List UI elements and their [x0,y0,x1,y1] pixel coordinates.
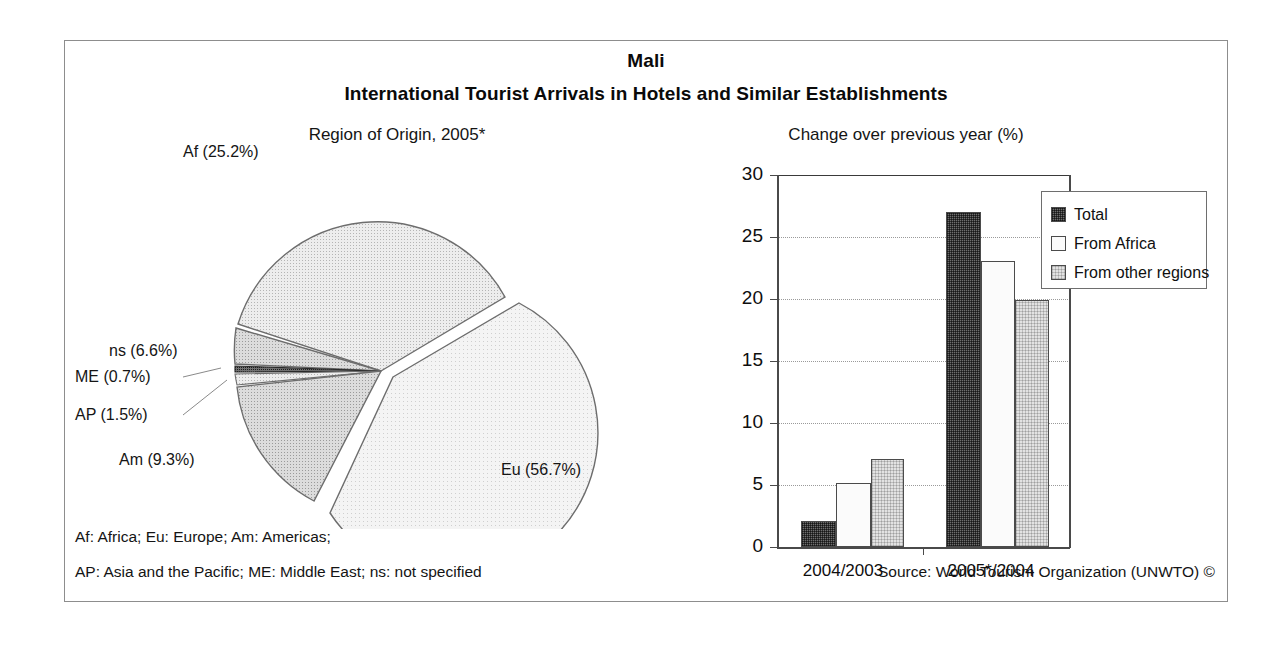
pie-chart-caption: Region of Origin, 2005* [227,125,567,145]
bar-2004-from-other-regions [871,459,904,547]
bar-2005-total [946,212,981,547]
pie-label-ns: ns (6.6%) [109,342,177,360]
ytick-label-15: 15 [729,349,763,371]
legend-swatch-from-other-regions [1051,265,1066,280]
bar-2004-from-africa [836,483,871,547]
gridline-25 [777,237,1070,238]
legend-label-from-other-regions: From other regions [1074,264,1209,282]
category-separator-tick [923,547,924,555]
legend-item-from-other-regions[interactable]: From other regions [1051,258,1206,287]
legend-item-total[interactable]: Total [1051,200,1206,229]
legend-label-from-africa: From Africa [1074,235,1156,253]
ytick-label-25: 25 [729,225,763,247]
bar-chart-legend: Total From Africa From other regions [1041,191,1207,289]
gridline-30 [777,175,1070,176]
bar-chart-caption: Change over previous year (%) [741,125,1071,145]
page-subtitle: International Tourist Arrivals in Hotels… [65,83,1227,105]
y-axis [777,175,779,548]
bar-2005-from-africa [981,261,1015,547]
pie-label-af: Af (25.2%) [183,143,259,161]
pie-chart-svg [71,149,691,529]
ytick-mark-10 [770,423,777,424]
ytick-label-0: 0 [729,535,763,557]
ytick-mark-15 [770,361,777,362]
legend-label-total: Total [1074,206,1108,224]
legend-item-from-africa[interactable]: From Africa [1051,229,1206,258]
ytick-mark-0 [770,547,777,548]
leader-line-ap [183,380,227,415]
leader-line-me [183,368,221,377]
ytick-mark-20 [770,299,777,300]
source-credit: Source: World Tourism Organization (UNWT… [878,563,1215,581]
legend-swatch-from-africa [1051,236,1066,251]
legend-swatch-total [1051,207,1066,222]
pie-chart: Af (25.2%) ns (6.6%) ME (0.7%) AP (1.5%)… [71,149,691,529]
pie-label-me: ME (0.7%) [75,368,151,386]
bar-2004-total [801,521,836,547]
ytick-mark-5 [770,485,777,486]
ytick-mark-25 [770,237,777,238]
footnote-abbreviations-line2: AP: Asia and the Pacific; ME: Middle Eas… [75,563,482,581]
pie-label-am: Am (9.3%) [119,451,195,469]
ytick-label-20: 20 [729,287,763,309]
chart-frame: Mali International Tourist Arrivals in H… [64,40,1228,602]
ytick-label-30: 30 [729,163,763,185]
pie-label-ap: AP (1.5%) [75,406,148,424]
bar-2005-from-other-regions [1015,300,1049,547]
footnote-abbreviations-line1: Af: Africa; Eu: Europe; Am: Americas; [75,528,331,546]
pie-label-eu: Eu (56.7%) [501,461,581,479]
page-title: Mali [65,50,1227,72]
ytick-mark-30 [770,175,777,176]
ytick-label-10: 10 [729,411,763,433]
ytick-label-5: 5 [729,473,763,495]
